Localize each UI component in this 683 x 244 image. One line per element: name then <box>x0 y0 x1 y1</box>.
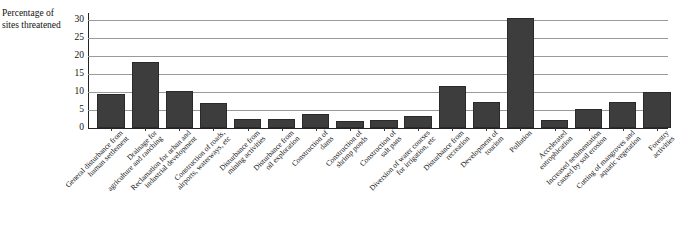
bar <box>575 109 602 128</box>
y-axis-title: Percentage of sites threatened <box>2 8 64 31</box>
y-tick-label-5: 5 <box>79 105 84 115</box>
x-axis-label-line: Pollution <box>509 129 535 155</box>
bar <box>268 119 295 128</box>
bar <box>234 119 261 128</box>
y-tick-label-10: 10 <box>75 87 85 97</box>
bar <box>473 102 500 128</box>
y-tick-label-15: 15 <box>75 69 85 79</box>
bar <box>302 114 329 128</box>
x-axis-label: Forestryactivities <box>646 129 677 160</box>
bar <box>336 121 363 128</box>
y-tick-label-0: 0 <box>79 123 84 133</box>
bar <box>439 86 466 128</box>
gridline-20: 20 <box>88 56 668 57</box>
y-tick-label-30: 30 <box>75 15 85 25</box>
bar <box>507 18 534 128</box>
bar <box>370 120 397 128</box>
bar <box>166 91 193 128</box>
bar <box>200 103 227 128</box>
bar <box>643 92 670 128</box>
y-axis-title-line-3: threatened <box>21 20 61 30</box>
x-axis-label: Pollution <box>509 129 535 155</box>
bar-chart: Percentage of sites threatened 051015202… <box>0 0 683 244</box>
y-tick-label-20: 20 <box>75 51 85 61</box>
bar <box>541 120 568 128</box>
bar <box>404 116 431 128</box>
y-tick-label-25: 25 <box>75 33 85 43</box>
bar <box>609 102 636 128</box>
plot-area: 051015202530 <box>88 13 668 128</box>
gridline-25: 25 <box>88 38 668 39</box>
bar <box>97 94 124 128</box>
x-axis-labels: General disturbance fromhuman settlement… <box>88 129 683 244</box>
y-axis-title-line-1: Percentage <box>2 8 44 18</box>
gridline-15: 15 <box>88 74 668 75</box>
gridline-30: 30 <box>88 20 668 21</box>
bar <box>132 62 159 128</box>
